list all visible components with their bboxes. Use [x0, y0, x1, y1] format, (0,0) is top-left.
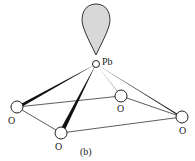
caption: (b) [80, 146, 92, 158]
label-o-back: O [117, 103, 124, 114]
label-pb: Pb [102, 56, 113, 67]
label-o-left: O [8, 115, 15, 126]
lead-atom [93, 61, 100, 68]
oxygen-atom-front [55, 127, 67, 139]
pbo4-pyramid-diagram: Pb O O O O (b) [0, 0, 195, 161]
oxygen-atom-left [11, 101, 23, 113]
oxygen-atom-right [176, 111, 188, 123]
oxygen-atom-back [115, 90, 127, 102]
pb-o-bonds [17, 64, 182, 134]
label-o-front: O [55, 141, 62, 152]
label-o-right: O [179, 125, 186, 136]
lone-pair-lobe [82, 4, 110, 55]
